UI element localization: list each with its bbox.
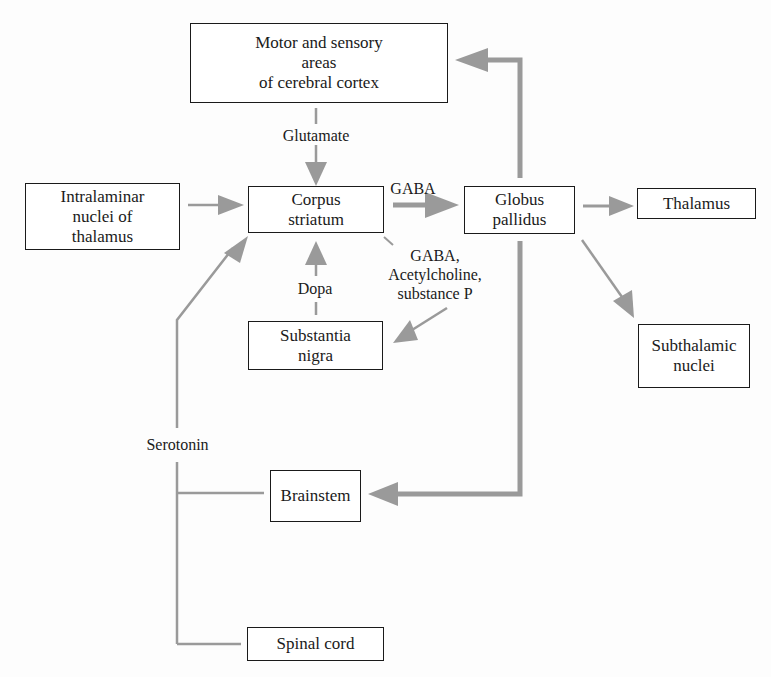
arrowhead-icon xyxy=(455,48,488,72)
edge-pallidus-to-subthalamic xyxy=(582,240,622,297)
edge-pallidus-to-cortex xyxy=(486,60,520,178)
node-intralaminar-nuclei: Intralaminar nuclei of thalamus xyxy=(25,183,180,250)
label-gaba: GABA xyxy=(388,179,438,198)
node-corpus-striatum: Corpus striatum xyxy=(248,186,384,233)
node-subthalamic-nuclei: Subthalamic nuclei xyxy=(638,324,750,388)
node-substantia-nigra: Substantia nigra xyxy=(248,321,383,370)
arrowhead-icon xyxy=(613,290,634,318)
arrowhead-icon xyxy=(368,482,398,506)
arrowhead-icon xyxy=(218,195,244,215)
node-thalamus: Thalamus xyxy=(637,188,756,219)
arrowhead-icon xyxy=(305,162,327,186)
label-glutamate: Glutamate xyxy=(266,126,366,145)
edge-striatum-to-nigra xyxy=(412,308,447,330)
arrowhead-icon xyxy=(393,320,418,343)
label-serotonin: Serotonin xyxy=(130,435,225,454)
arrowhead-icon xyxy=(609,196,634,216)
arrowhead-icon xyxy=(305,241,327,265)
node-brainstem: Brainstem xyxy=(270,470,361,522)
edge-striatum-to-nigra-tick xyxy=(384,237,393,245)
label-gaba-ach-substance-p: GABA, Acetylcholine, substance P xyxy=(380,246,490,303)
label-dopa: Dopa xyxy=(285,279,345,298)
node-cerebral-cortex: Motor and sensory areas of cerebral cort… xyxy=(190,23,448,103)
arrowhead-icon xyxy=(224,236,248,263)
edge-serotonin-to-striatum xyxy=(177,248,233,428)
node-spinal-cord: Spinal cord xyxy=(247,627,384,661)
node-globus-pallidus: Globus pallidus xyxy=(464,186,575,234)
